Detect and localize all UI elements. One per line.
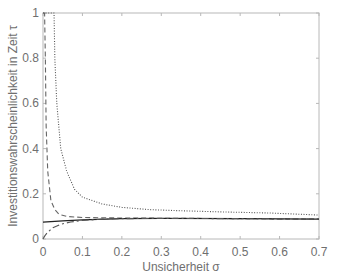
x-tick-label: 0.2 [114, 245, 131, 259]
y-axis-label: Investitionswahrscheinlichkeit in Zeit τ [6, 25, 20, 227]
y-tick-label: 0.4 [22, 142, 39, 156]
y-tick-label: 1 [32, 6, 39, 20]
y-tick-label: 0.8 [22, 51, 39, 65]
x-axis-label: Unsicherheit σ [142, 260, 220, 274]
x-tick-label: 0 [40, 245, 47, 259]
y-tick-label: 0.6 [22, 96, 39, 110]
x-tick-label: 0.6 [271, 245, 288, 259]
y-tick-label: 0.2 [22, 187, 39, 201]
axes-box [43, 13, 319, 239]
series-line-dotted [43, 13, 319, 215]
x-tick-label: 0.4 [192, 245, 209, 259]
y-tick-label: 0 [32, 232, 39, 246]
series-line-dash-dot [43, 218, 319, 239]
line-chart: 00.10.20.30.40.50.60.7 00.20.40.60.81 Un… [0, 0, 337, 280]
x-tick-label: 0.1 [74, 245, 91, 259]
series-line-dashed [43, 13, 319, 219]
series-group [43, 13, 319, 239]
x-axis-ticks: 00.10.20.30.40.50.60.7 [40, 13, 328, 259]
x-tick-label: 0.7 [311, 245, 328, 259]
y-axis-ticks: 00.20.40.60.81 [22, 6, 319, 246]
x-tick-label: 0.3 [153, 245, 170, 259]
x-tick-label: 0.5 [232, 245, 249, 259]
